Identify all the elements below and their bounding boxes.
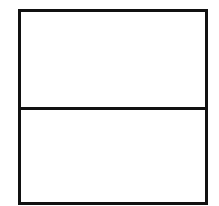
bottom-panel (21, 110, 205, 202)
outer-rectangle (18, 9, 208, 205)
top-panel (21, 12, 205, 107)
